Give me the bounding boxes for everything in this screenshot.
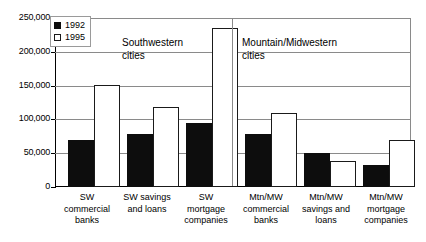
bar-1995-sw-commercial-banks	[94, 85, 120, 187]
y-tick-label: 200,000	[0, 47, 50, 56]
category-label-mtn-mw-mortgage-companies: Mtn/MW mortgage companies	[355, 192, 417, 227]
bar-1995-mtn-mw-commercial-banks	[271, 113, 297, 187]
legend-item-1992: 1992	[54, 19, 85, 31]
bar-1992-mtn-mw-commercial-banks	[245, 134, 271, 187]
bar-1992-sw-savings-and-loans	[127, 134, 153, 187]
category-label-mtn-mw-commercial-banks: Mtn/MW commercial banks	[235, 192, 297, 227]
y-tick-label: 50,000	[0, 148, 50, 157]
group-divider	[232, 18, 233, 186]
y-tick-label: 250,000	[0, 13, 50, 22]
bar-1992-mtn-mw-mortgage-companies	[363, 165, 389, 187]
category-label-sw-commercial-banks: SW commercial banks	[57, 192, 117, 227]
chart-legend: 1992 1995	[50, 16, 91, 47]
bar-1995-mtn-mw-mortgage-companies	[389, 140, 415, 187]
legend-swatch-hollow-square-icon	[54, 34, 61, 41]
category-label-mtn-mw-savings-and-loans: Mtn/MW savings and loans	[295, 192, 357, 227]
y-tick-label: 100,000	[0, 114, 50, 123]
bar-1995-sw-savings-and-loans	[153, 107, 179, 187]
bar-1992-mtn-mw-savings-and-loans	[304, 153, 330, 187]
y-tick-label: 0	[0, 182, 50, 191]
bar-1992-sw-commercial-banks	[68, 140, 94, 187]
y-tick-label: 150,000	[0, 81, 50, 90]
legend-swatch-filled-square-icon	[54, 22, 61, 29]
bar-1992-sw-mortgage-companies	[186, 123, 212, 187]
legend-label-1992: 1992	[65, 21, 85, 30]
legend-label-1995: 1995	[65, 33, 85, 42]
category-label-sw-mortgage-companies: SW mortgage companies	[176, 192, 236, 227]
bar-chart: 250,000 200,000 150,000 100,000 50,000 0	[0, 0, 426, 242]
category-label-sw-savings-and-loans: SW savings and loans	[117, 192, 177, 215]
annotation-southwestern-cities: Southwestern cities	[122, 36, 183, 62]
bar-1995-sw-mortgage-companies	[212, 28, 238, 187]
legend-item-1995: 1995	[54, 31, 85, 43]
bar-1995-mtn-mw-savings-and-loans	[330, 161, 356, 187]
annotation-mountain-midwestern-cities: Mountain/Midwestern cities	[242, 36, 337, 62]
plot-area	[55, 18, 411, 187]
